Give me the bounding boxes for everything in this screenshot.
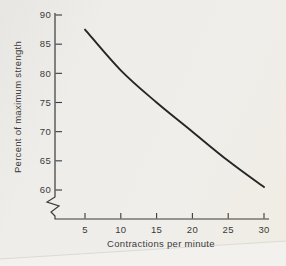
y-tick-label-85: 85 [40,38,51,49]
y-tick-label-60: 60 [40,184,51,195]
x-tick-label-30: 30 [258,224,269,235]
axes-with-y-break [47,13,269,219]
y-axis-title: Percent of maximum strength [12,41,23,173]
x-axis-title: Contractions per minute [107,238,215,249]
x-tick-label-5: 5 [82,224,88,235]
y-tick-label-90: 90 [40,9,51,20]
strength-curve [85,30,264,188]
y-tick-label-75: 75 [40,97,51,108]
y-tick-label-65: 65 [40,155,51,166]
figure: 9085807570656051015202530 Percent of max… [0,0,286,266]
x-tick-label-15: 15 [151,224,162,235]
x-tick-label-20: 20 [187,224,198,235]
y-tick-label-80: 80 [40,68,51,79]
y-tick-label-70: 70 [40,126,51,137]
line-chart: 9085807570656051015202530 [0,0,286,266]
x-tick-label-10: 10 [115,224,126,235]
x-tick-label-25: 25 [223,224,234,235]
